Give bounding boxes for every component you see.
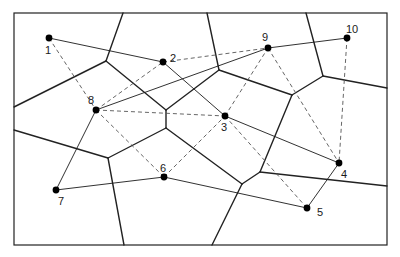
site-label-5: 5 (317, 206, 323, 218)
site-label-1: 1 (45, 44, 51, 56)
site-point-5 (304, 205, 311, 212)
dashed-edge-3-9 (225, 48, 268, 116)
site-labels: 12345678910 (45, 23, 358, 218)
voronoi-cell-boundaries (14, 13, 387, 245)
site-label-4: 4 (341, 168, 347, 180)
tour-edge-8-9 (96, 48, 268, 110)
dashed-edge-10-4 (339, 38, 347, 163)
site-point-2 (160, 59, 167, 66)
voronoi-edge (106, 13, 123, 61)
delaunay-dashed-edges (49, 38, 347, 208)
site-point-4 (336, 160, 343, 167)
site-points (46, 35, 351, 212)
tour-path-edges (49, 38, 347, 208)
site-point-6 (161, 174, 168, 181)
tour-edge-1-2 (49, 38, 163, 62)
site-point-7 (53, 187, 60, 194)
dashed-edge-8-2 (96, 62, 163, 110)
site-point-1 (46, 35, 53, 42)
voronoi-edge (108, 128, 166, 158)
site-point-10 (344, 35, 351, 42)
site-point-9 (265, 45, 272, 52)
dashed-edge-9-4 (268, 48, 339, 163)
diagram-frame (14, 13, 387, 245)
dashed-edge-8-3 (96, 110, 225, 116)
voronoi-edge (207, 13, 219, 70)
voronoi-edge (323, 76, 387, 88)
site-point-3 (222, 113, 229, 120)
site-label-2: 2 (170, 52, 176, 64)
site-label-7: 7 (58, 195, 64, 207)
voronoi-edge (292, 76, 323, 95)
dashed-edge-6-3 (164, 116, 225, 177)
site-label-9: 9 (262, 31, 268, 43)
voronoi-edge (306, 13, 323, 76)
voronoi-edge (108, 158, 124, 245)
site-point-8 (93, 107, 100, 114)
voronoi-edge (14, 130, 108, 158)
voronoi-edge (242, 172, 260, 184)
voronoi-edge (219, 70, 292, 95)
dashed-edge-8-6 (96, 110, 164, 177)
tour-edge-5-6 (164, 177, 307, 208)
site-label-3: 3 (221, 121, 227, 133)
tour-edge-2-3 (163, 62, 225, 116)
tour-edge-4-5 (307, 163, 339, 208)
site-label-10: 10 (346, 23, 358, 35)
tour-edge-6-7 (56, 177, 164, 190)
tour-edge-7-8 (56, 110, 96, 190)
tour-edge-9-10 (268, 38, 347, 48)
site-label-6: 6 (160, 162, 166, 174)
voronoi-diagram: 12345678910 (0, 0, 400, 257)
voronoi-edge (260, 172, 387, 186)
site-label-8: 8 (88, 94, 94, 106)
tour-edge-3-4 (225, 116, 339, 163)
voronoi-edge (106, 61, 166, 110)
